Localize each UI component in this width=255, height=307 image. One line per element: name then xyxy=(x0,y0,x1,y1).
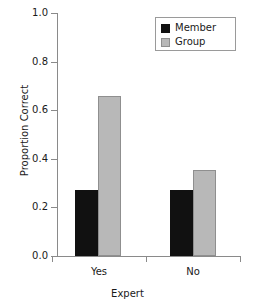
y-axis-title: Proportion Correct xyxy=(19,51,30,211)
y-tick-label: 0.6 xyxy=(0,105,48,115)
y-tick-label: 0.0 xyxy=(0,251,48,261)
y-tick-mark xyxy=(51,62,57,63)
bar-yes-group xyxy=(98,96,121,256)
legend-label-member: Member xyxy=(175,23,216,33)
chart-legend: Member Group xyxy=(155,17,236,51)
black-square-swatch-icon xyxy=(161,24,170,33)
legend-item-member: Member xyxy=(161,21,235,35)
x-tick-mark xyxy=(240,256,241,262)
y-tick-mark xyxy=(51,110,57,111)
bar-no-group xyxy=(193,170,216,256)
bar-chart: Proportion Correct 1.0 0.8 0.6 0.4 0.2 0… xyxy=(0,0,255,307)
x-tick-label-no: No xyxy=(163,266,223,277)
y-tick-mark xyxy=(51,159,57,160)
x-tick-label-yes: Yes xyxy=(69,266,129,277)
x-tick-mark xyxy=(146,256,147,262)
y-tick-label: 0.2 xyxy=(0,202,48,212)
y-tick-label: 1.0 xyxy=(0,8,48,18)
x-tick-mark xyxy=(52,256,53,262)
legend-label-group: Group xyxy=(175,37,205,47)
y-tick-label: 0.8 xyxy=(0,57,48,67)
y-tick-mark xyxy=(51,207,57,208)
x-axis-title: Expert xyxy=(0,288,255,299)
y-tick-label: 0.4 xyxy=(0,154,48,164)
gray-square-swatch-icon xyxy=(161,38,170,47)
bar-yes-member xyxy=(75,190,98,256)
legend-item-group: Group xyxy=(161,35,235,49)
bar-no-member xyxy=(170,190,193,256)
y-tick-mark xyxy=(51,13,57,14)
y-axis-line xyxy=(57,13,58,256)
